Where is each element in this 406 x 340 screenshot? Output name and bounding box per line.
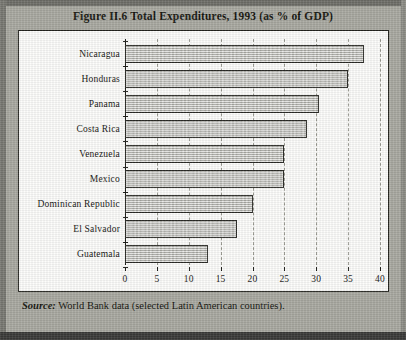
x-axis-tick-label: 25 — [271, 274, 297, 284]
y-axis-tick — [123, 116, 128, 117]
source-note: Source: World Bank data (selected Latin … — [22, 300, 285, 311]
category-label-nicaragua: Nicaragua — [19, 49, 120, 59]
y-axis-tick — [123, 217, 128, 218]
x-axis-tick-label: 0 — [112, 274, 138, 284]
y-axis-tick — [123, 267, 128, 268]
bar-venezuela — [125, 145, 284, 163]
x-axis-tick — [157, 267, 158, 271]
bar-row — [125, 145, 284, 163]
bar-guatemala — [125, 245, 208, 263]
x-axis-tick — [221, 267, 222, 271]
bar-nicaragua — [125, 45, 364, 63]
bar-row — [125, 195, 253, 213]
x-axis-tick — [380, 267, 381, 271]
source-text: World Bank data (selected Latin American… — [56, 300, 285, 311]
page-edge-right — [401, 0, 406, 340]
source-label: Source: — [22, 300, 56, 311]
bar-row — [125, 245, 208, 263]
bar-el-salvador — [125, 220, 237, 238]
y-axis-tick — [123, 141, 128, 142]
x-axis-tick-label: 5 — [144, 274, 170, 284]
bar-row — [125, 220, 237, 238]
bar-dominican-republic — [125, 195, 253, 213]
bar-panama — [125, 95, 319, 113]
y-axis-tick — [123, 91, 128, 92]
bar-row — [125, 95, 319, 113]
x-axis-tick — [284, 267, 285, 271]
category-label-dominican-republic: Dominican Republic — [19, 199, 120, 209]
x-axis-tick — [348, 267, 349, 271]
x-axis-tick — [253, 267, 254, 271]
chart-canvas: 0510152025303540NicaraguaHondurasPanamaC… — [19, 31, 388, 291]
x-axis-tick-label: 40 — [367, 274, 393, 284]
y-axis-tick — [123, 192, 128, 193]
y-axis-tick — [123, 66, 128, 67]
x-axis-tick-label: 10 — [176, 274, 202, 284]
category-label-venezuela: Venezuela — [19, 149, 120, 159]
bar-honduras — [125, 70, 348, 88]
x-axis-tick-label: 35 — [335, 274, 361, 284]
bar-row — [125, 70, 348, 88]
y-axis-tick — [123, 167, 128, 168]
category-label-costa-rica: Costa Rica — [19, 124, 120, 134]
page-edge-top — [0, 0, 406, 6]
gridline-40 — [380, 39, 381, 265]
category-label-mexico: Mexico — [19, 174, 120, 184]
chart-plot-area: 0510152025303540NicaraguaHondurasPanamaC… — [18, 30, 389, 292]
bar-mexico — [125, 170, 284, 188]
gridline-35 — [348, 39, 349, 265]
page-edge-bottom — [0, 332, 406, 340]
bar-row — [125, 120, 307, 138]
x-axis-tick-label: 15 — [208, 274, 234, 284]
y-axis-tick — [123, 242, 128, 243]
category-label-guatemala: Guatemala — [19, 249, 120, 259]
figure-title: Figure II.6 Total Expenditures, 1993 (as… — [18, 10, 388, 22]
figure-page: Figure II.6 Total Expenditures, 1993 (as… — [0, 0, 406, 340]
y-axis-tick — [123, 41, 128, 42]
page-edge-left — [0, 0, 6, 340]
bar-row — [125, 170, 284, 188]
x-axis-tick — [316, 267, 317, 271]
x-axis-tick-label: 20 — [240, 274, 266, 284]
x-axis-tick-label: 30 — [303, 274, 329, 284]
category-label-panama: Panama — [19, 99, 120, 109]
bar-row — [125, 45, 364, 63]
x-axis-tick — [189, 267, 190, 271]
category-label-el-salvador: El Salvador — [19, 224, 120, 234]
category-label-honduras: Honduras — [19, 74, 120, 84]
bar-costa-rica — [125, 120, 307, 138]
